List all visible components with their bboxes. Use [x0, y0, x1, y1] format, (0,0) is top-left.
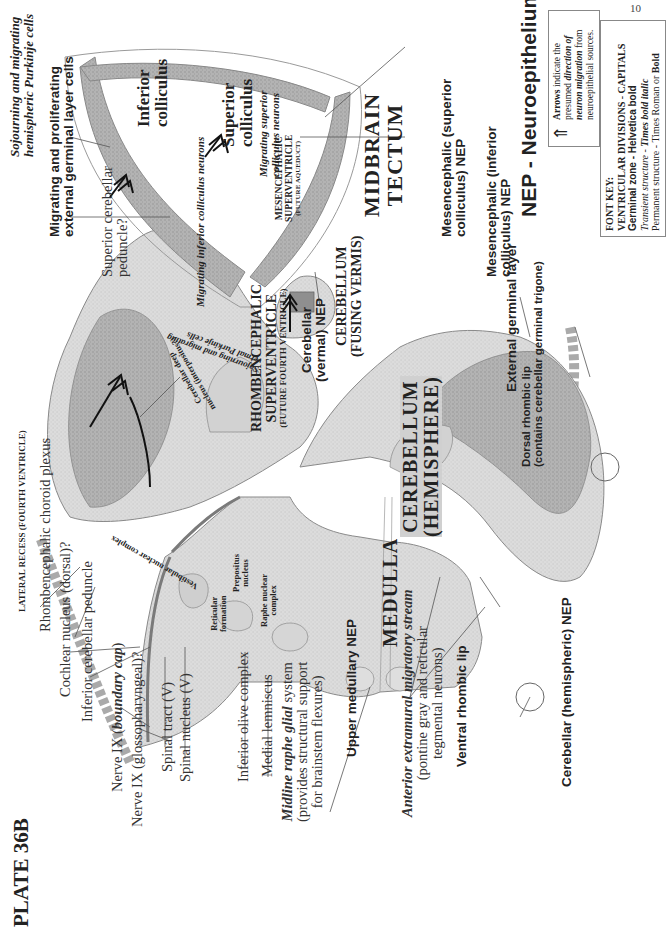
- inferior-olive-label: Inferior olive complex: [236, 652, 251, 782]
- lateral-recess-label: LATERAL RECESS (FOURTH VENTRICLE): [18, 430, 27, 612]
- double-chevron-arrow-icon: ⇑: [552, 126, 596, 141]
- cerebellar-vermal-nep-label: Cerebellar(vermal) NEP: [300, 298, 328, 382]
- nep-neuroepithelium-title: NEP - Neuroepithelium: [518, 0, 540, 217]
- reticular-formation-label: Reticularformation: [210, 596, 228, 632]
- nerve-ix-boundary-cap-label: Nerve IX (boundary cap): [110, 643, 125, 792]
- midbrain-tectum-label: MIDBRAINTECTUM: [360, 93, 406, 217]
- mesencephalic-superior-nep-label: Mesencephalic (superiorcolliculus) NEP: [440, 79, 468, 237]
- mesencephalic-superventricle-label: MESENCEPHALIC SUPERVENTRICLE (FUTURE AQU…: [275, 135, 302, 222]
- raphe-nuclear-complex-label: Raphe nuclearcomplex: [260, 574, 278, 627]
- superior-cerebellar-peduncle-label: Superior cerebellarpeduncle?: [100, 166, 130, 277]
- upper-medullary-nep-label: Upper medullary NEP: [345, 619, 359, 757]
- rhombencephalic-choroid-plexus-label: Rhombencephalic choroid plexus: [38, 438, 53, 632]
- prepositus-nucleus-label: Prepositusnucleus: [232, 554, 250, 592]
- cerebellum-hemisphere-label: CEREBELLUM(HEMISPHERE): [400, 376, 442, 537]
- nerve-ix-glossopharyngeal-label: Nerve IX (glossopharyngeal)?: [130, 651, 145, 827]
- hemispheric-purkinje-label: Sojourning and migratinghemispheric Purk…: [8, 14, 35, 157]
- cochlear-nucleus-label: Cochlear nucleus (dorsal)?: [58, 542, 73, 697]
- superior-colliculus-label: Superiorcolliculus: [220, 79, 256, 147]
- medulla-division-label: MEDULLA: [380, 538, 401, 647]
- anterior-extramural-stream-label: Anterior extramural migratory stream (po…: [400, 589, 446, 817]
- spinal-nucleus-label: Spinal nucleus (V): [178, 673, 193, 782]
- rhombencephalic-superventricle-label: RHOMBENCEPHALIC SUPERVENTRICLE (FUTURE F…: [250, 284, 289, 432]
- plate-title: PLATE 36B: [10, 818, 32, 927]
- migrating-egl-label: Migrating and proliferatingexternal germ…: [48, 56, 76, 237]
- midline-raphe-label: Midline raphe glial system (provides str…: [280, 662, 326, 822]
- mesencephalic-inferior-nep-label: Mesencephalic (inferiorcolliculus) NEP: [485, 126, 513, 277]
- inferior-cerebellar-peduncle-label: Inferior cerebellar peduncle: [80, 561, 95, 722]
- medial-lemniscus-label: Medial lemniscus: [260, 674, 275, 777]
- spinal-tract-label: Spinal tract (V): [160, 682, 175, 772]
- arrow-legend-box: ⇑ Arrows indicate the presumed direction…: [548, 10, 600, 147]
- dorsal-rhombic-lip-label: Dorsal rhombic lip(contains cerebellar g…: [520, 261, 544, 467]
- cerebellar-hemispheric-nep-label: Cerebellar (hemispheric) NEP: [560, 597, 574, 787]
- migrating-inferior-colliculus-label: Migrating inferior colliculus neurons: [195, 137, 207, 307]
- ventral-rhombic-lip-label: Ventral rhombic lip: [455, 645, 469, 767]
- font-key-box: FONT KEY: VENTRICULAR DIVISIONS - CAPITA…: [600, 20, 666, 237]
- cerebellum-vermis-label: CEREBELLUM(FUSING VERMIS): [335, 236, 364, 357]
- inferior-colliculus-label: Inferiorcolliculus: [135, 59, 171, 127]
